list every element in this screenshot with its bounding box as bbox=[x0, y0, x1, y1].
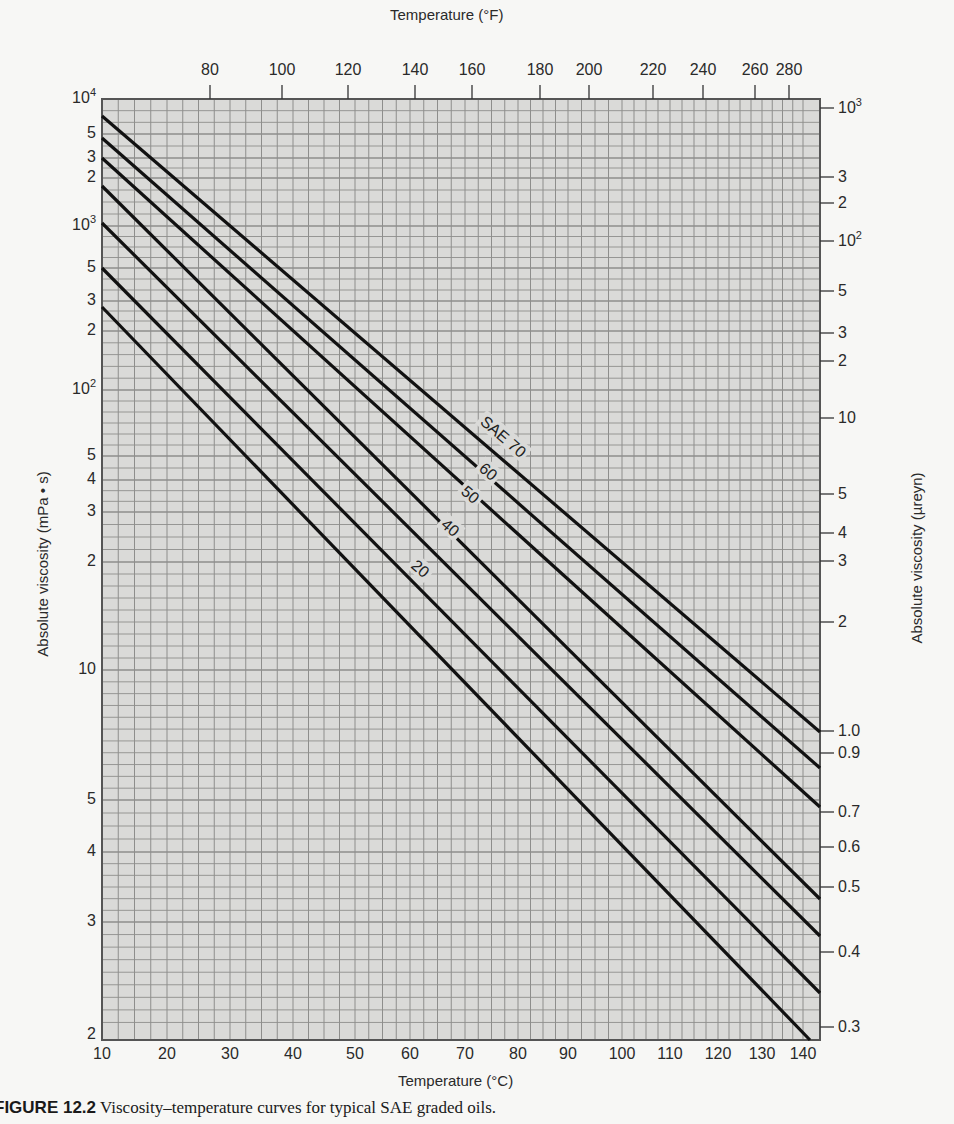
left-tick-label: 2 bbox=[87, 553, 96, 569]
top-tick-label: 120 bbox=[335, 62, 362, 78]
bottom-tick-label: 110 bbox=[657, 1046, 683, 1062]
bottom-tick-label: 100 bbox=[609, 1046, 636, 1062]
right-tick-label: 103 bbox=[838, 100, 862, 116]
top-tick-label: 260 bbox=[742, 62, 769, 78]
left-tick-label: 5 bbox=[87, 447, 96, 463]
right-tick-label: 5 bbox=[838, 486, 847, 502]
right-tick-label: 2 bbox=[838, 614, 847, 630]
right-tick-label: 0.9 bbox=[838, 745, 860, 761]
right-tick-label: 5 bbox=[838, 283, 847, 299]
left-tick-label: 2 bbox=[87, 1026, 96, 1042]
left-tick-label: 102 bbox=[72, 381, 96, 397]
left-tick-label: 5 bbox=[87, 125, 96, 141]
right-tick-label: 3 bbox=[838, 169, 847, 185]
right-tick-label: 0.6 bbox=[838, 839, 860, 855]
viscosity-temperature-figure: SAE 7060504020 Temperature (°F) Temperat… bbox=[0, 0, 954, 1124]
bottom-tick-label: 70 bbox=[456, 1046, 474, 1062]
right-tick-label: 0.3 bbox=[838, 1019, 860, 1035]
top-tick-label: 180 bbox=[527, 62, 554, 78]
left-tick-label: 3 bbox=[87, 149, 96, 165]
left-tick-label: 2 bbox=[87, 322, 96, 338]
top-tick-label: 220 bbox=[640, 62, 667, 78]
top-tick-label: 100 bbox=[269, 62, 296, 78]
right-tick-label: 3 bbox=[838, 325, 847, 341]
bottom-tick-label: 90 bbox=[559, 1046, 577, 1062]
left-tick-label: 10 bbox=[78, 661, 96, 677]
right-tick-label: 3 bbox=[838, 553, 847, 569]
figure-caption-label: FIGURE 12.2 bbox=[0, 1098, 96, 1117]
bottom-tick-label: 140 bbox=[790, 1046, 817, 1062]
left-tick-label: 5 bbox=[87, 791, 96, 807]
bottom-tick-label: 40 bbox=[284, 1046, 302, 1062]
left-tick-label: 3 bbox=[87, 913, 96, 929]
top-tick-label: 160 bbox=[459, 62, 486, 78]
right-tick-label: 2 bbox=[838, 195, 847, 211]
bottom-tick-label: 30 bbox=[221, 1046, 239, 1062]
left-tick-label: 2 bbox=[87, 169, 96, 185]
bottom-axis-title: Temperature (°C) bbox=[398, 1072, 513, 1089]
left-axis-title: Absolute viscosity (mPa • s) bbox=[34, 471, 51, 656]
left-tick-label: 5 bbox=[87, 259, 96, 275]
right-tick-label: 0.4 bbox=[838, 944, 860, 960]
left-tick-label: 3 bbox=[87, 292, 96, 308]
right-axis-ticks bbox=[820, 108, 834, 1027]
right-tick-label: 2 bbox=[838, 353, 847, 369]
right-tick-label: 102 bbox=[838, 233, 862, 249]
top-tick-label: 200 bbox=[576, 62, 603, 78]
right-tick-label: 0.5 bbox=[838, 879, 860, 895]
chart-plot: SAE 7060504020 bbox=[0, 0, 954, 1124]
figure-caption-text: Viscosity–temperature curves for typical… bbox=[100, 1098, 496, 1117]
right-tick-label: 1.0 bbox=[838, 723, 860, 739]
top-tick-label: 280 bbox=[776, 62, 803, 78]
bottom-tick-label: 80 bbox=[509, 1046, 527, 1062]
left-tick-label: 4 bbox=[87, 843, 96, 859]
bottom-tick-label: 50 bbox=[346, 1046, 364, 1062]
bottom-tick-label: 20 bbox=[158, 1046, 176, 1062]
left-tick-label: 4 bbox=[87, 471, 96, 487]
top-tick-label: 240 bbox=[690, 62, 717, 78]
top-axis-ticks bbox=[210, 85, 789, 99]
left-tick-label: 3 bbox=[87, 503, 96, 519]
top-tick-label: 80 bbox=[201, 62, 219, 78]
left-tick-label: 104 bbox=[72, 90, 96, 106]
right-tick-label: 0.7 bbox=[838, 804, 860, 820]
bottom-tick-label: 120 bbox=[705, 1046, 732, 1062]
top-axis-title: Temperature (°F) bbox=[390, 6, 504, 23]
right-axis-title: Absolute viscosity (µreyn) bbox=[908, 472, 925, 643]
bottom-tick-label: 130 bbox=[749, 1046, 776, 1062]
bottom-tick-label: 10 bbox=[93, 1046, 111, 1062]
left-tick-label: 103 bbox=[72, 217, 96, 233]
bottom-tick-label: 60 bbox=[401, 1046, 419, 1062]
top-tick-label: 140 bbox=[402, 62, 429, 78]
figure-caption: FIGURE 12.2 Viscosity–temperature curves… bbox=[0, 1098, 496, 1118]
right-tick-label: 4 bbox=[838, 525, 847, 541]
right-tick-label: 10 bbox=[838, 410, 856, 426]
